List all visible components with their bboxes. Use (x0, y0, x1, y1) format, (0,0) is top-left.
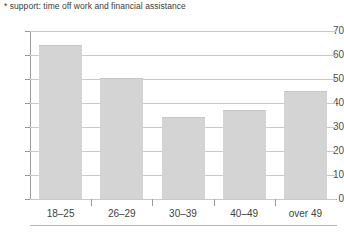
bar-chart-figure: * support: time off work and financial a… (0, 0, 344, 232)
x-axis-category-label: 30–39 (152, 208, 213, 220)
bar (284, 91, 327, 199)
bar (39, 45, 82, 199)
x-axis-category-label: 40–49 (214, 208, 275, 220)
x-axis-band-bottom-border (30, 225, 337, 226)
x-axis-separator (91, 199, 92, 206)
x-axis-separator (152, 199, 153, 206)
footnote-text: * support: time off work and financial a… (4, 1, 186, 11)
x-axis-category-band: 18–2526–2930–3940–49over 49 (30, 199, 336, 225)
x-axis-separator (275, 199, 276, 206)
plot-area (30, 31, 336, 199)
x-axis-separator (214, 199, 215, 206)
x-axis-category-label: 26–29 (91, 208, 152, 220)
bar (100, 78, 143, 199)
bar (162, 117, 205, 199)
x-axis-category-label: 18–25 (30, 208, 91, 220)
bar (223, 110, 266, 199)
x-axis-category-label: over 49 (275, 208, 336, 220)
gridline (30, 31, 336, 32)
